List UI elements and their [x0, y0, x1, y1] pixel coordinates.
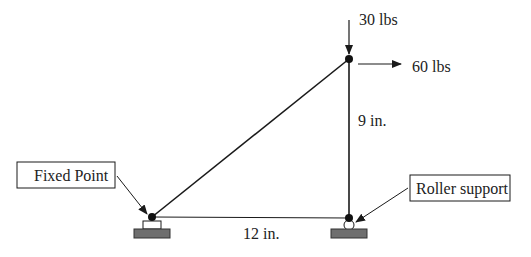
load-horizontal-label: 60 lbs: [412, 58, 451, 75]
truss-diagram: 30 lbs 60 lbs 9 in. 12 in. Fixed Point R…: [0, 0, 531, 257]
callout-fixed-label: Fixed Point: [34, 167, 109, 184]
truss-members: [152, 59, 349, 218]
callout-fixed-arrow-icon: [117, 176, 147, 214]
dimension-vertical-label: 9 in.: [358, 112, 386, 129]
roller-support: [331, 220, 367, 238]
node-roller: [345, 214, 353, 222]
dimension-horizontal-label: 12 in.: [243, 225, 279, 242]
fixed-support-block: [143, 221, 161, 229]
callout-roller-support: Roller support: [356, 175, 510, 222]
fixed-support-ground: [134, 229, 170, 238]
diagonal-member: [152, 59, 349, 217]
horizontal-member: [152, 217, 349, 218]
callout-roller-arrow-icon: [356, 188, 408, 222]
roller-support-ground: [331, 229, 367, 238]
node-fixed: [148, 213, 156, 221]
callout-roller-label: Roller support: [416, 180, 509, 198]
fixed-support: [134, 221, 170, 238]
load-vertical-label: 30 lbs: [359, 11, 398, 28]
load-horizontal: 60 lbs: [358, 58, 451, 75]
load-vertical: 30 lbs: [349, 11, 398, 54]
callout-fixed-point: Fixed Point: [17, 162, 147, 214]
node-top: [345, 55, 353, 63]
